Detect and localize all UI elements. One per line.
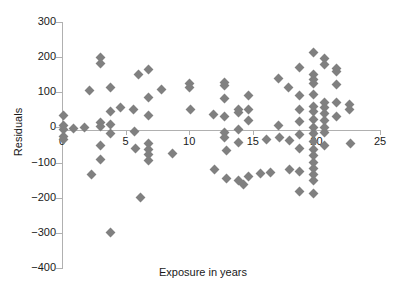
residual-scatter-chart: Residuals 3002001000−100−200−300−400 051…	[0, 0, 406, 297]
y-tick-label: 0	[10, 121, 56, 132]
y-tick-label: −200	[10, 192, 56, 203]
y-tick-label: −300	[10, 227, 56, 238]
x-axis-title: Exposure in years	[0, 266, 406, 278]
y-tick-label: −100	[10, 157, 56, 168]
y-tick-label: 200	[10, 51, 56, 62]
y-tick-label: 300	[10, 16, 56, 27]
y-tick-label: 100	[10, 86, 56, 97]
